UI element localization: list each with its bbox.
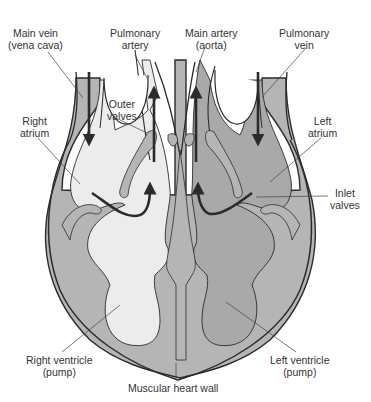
heart-illustration bbox=[0, 0, 371, 402]
label-right-ventricle: Right ventricle (pump) bbox=[26, 354, 93, 378]
label-pulmonary-vein: Pulmonary vein bbox=[279, 27, 329, 51]
label-main-artery: Main artery (aorta) bbox=[185, 27, 238, 51]
label-left-atrium: Left atrium bbox=[308, 115, 337, 139]
label-pulmonary-artery: Pulmonary artery bbox=[110, 27, 160, 51]
label-main-vein: Main vein (vena cava) bbox=[8, 27, 63, 51]
label-muscular-heart-wall: Muscular heart wall bbox=[128, 382, 218, 394]
label-left-ventricle: Left ventricle (pump) bbox=[270, 354, 330, 378]
label-inlet-valves: Inlet valves bbox=[330, 187, 360, 211]
label-right-atrium: Right atrium bbox=[20, 115, 49, 139]
heart-diagram: Main vein (vena cava) Pulmonary artery M… bbox=[0, 0, 371, 402]
label-outer-valves: Outer valves bbox=[107, 98, 137, 122]
